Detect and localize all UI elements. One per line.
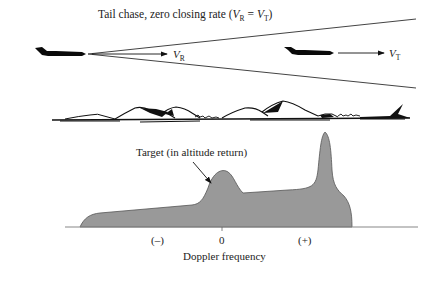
terrain-illustration bbox=[52, 101, 410, 122]
radar-aircraft-icon bbox=[35, 47, 86, 56]
target-annotation: Target (in altitude return) bbox=[136, 146, 247, 159]
target-annotation-arrow bbox=[193, 162, 211, 183]
diagram-title: Tail chase, zero closing rate (VR = VT) bbox=[98, 8, 273, 23]
diagram-canvas: Tail chase, zero closing rate (VR = VT) … bbox=[0, 0, 440, 282]
tick-label-zero: 0 bbox=[219, 234, 225, 246]
tick-label-positive: (+) bbox=[298, 234, 312, 247]
target-velocity-label: VT bbox=[389, 47, 401, 62]
x-axis-label: Doppler frequency bbox=[183, 250, 266, 262]
target-aircraft-icon bbox=[284, 47, 334, 55]
diagram-svg: Tail chase, zero closing rate (VR = VT) … bbox=[0, 0, 440, 282]
tick-label-negative: (–) bbox=[151, 234, 164, 247]
radar-velocity-label: VR bbox=[173, 48, 185, 63]
radar-beam bbox=[88, 19, 416, 88]
